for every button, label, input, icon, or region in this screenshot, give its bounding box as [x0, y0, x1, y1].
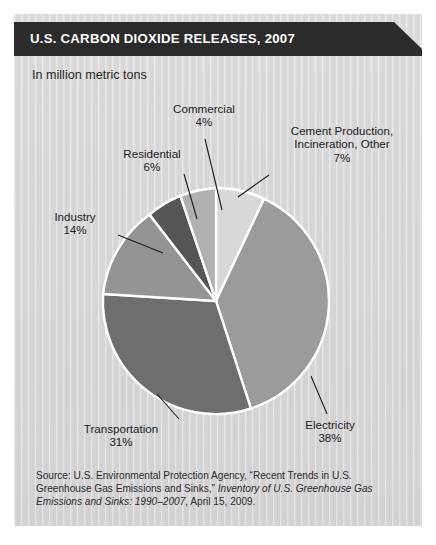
- pie-label-electricity-pct: 38%: [291, 431, 369, 444]
- pie-label-cement: Cement Production, Incineration, Other 7…: [262, 124, 422, 164]
- source-part3: , April 15, 2009.: [185, 496, 255, 507]
- pie-slices: [103, 188, 329, 414]
- pie-label-electricity: Electricity 38%: [291, 418, 369, 445]
- pie-label-industry-name: Industry: [54, 210, 95, 223]
- pie-label-electricity-name: Electricity: [305, 418, 355, 431]
- pie-label-commercial: Commercial 4%: [148, 102, 260, 129]
- pie-label-industry-pct: 14%: [36, 223, 114, 236]
- pie-label-residential-pct: 6%: [99, 160, 205, 173]
- pie-label-transportation-pct: 31%: [54, 435, 188, 448]
- pie-label-commercial-name: Commercial: [173, 102, 235, 115]
- pie-label-cement-name-line2: Incineration, Other: [294, 137, 389, 150]
- pie-chart: Commercial 4% Cement Production, Inciner…: [14, 14, 422, 526]
- figure-panel: U.S. CARBON DIOXIDE RELEASES, 2007 In mi…: [14, 14, 422, 526]
- pie-label-industry: Industry 14%: [36, 210, 114, 237]
- pie-label-cement-pct: 7%: [262, 151, 422, 164]
- pie-label-residential: Residential 6%: [99, 147, 205, 174]
- pie-label-commercial-pct: 4%: [148, 115, 260, 128]
- pie-label-transportation-name: Transportation: [84, 422, 158, 435]
- leader-line-electricity: [311, 376, 327, 414]
- pie-label-transportation: Transportation 31%: [54, 422, 188, 449]
- pie-label-cement-name-line1: Cement Production,: [291, 124, 393, 137]
- source-note: Source: U.S. Environmental Protection Ag…: [36, 469, 404, 509]
- pie-label-residential-name: Residential: [123, 147, 180, 160]
